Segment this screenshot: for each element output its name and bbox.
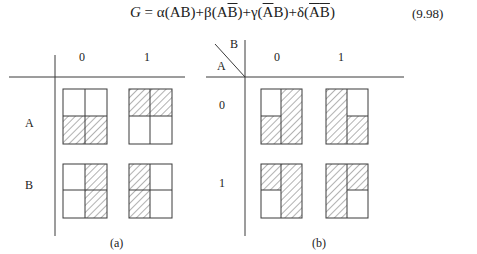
diagram-b-col-label-0: 0 [274,50,280,65]
cell-b-0-1 [326,89,368,144]
diagram-b-axes [206,40,404,236]
cell-b-1-1 [326,164,368,218]
cell-a-A-1 [129,89,172,144]
diagram-a-caption: (a) [110,236,123,251]
diagram-b-caption: (b) [312,236,326,251]
diagram-b-row-label-1: 1 [219,176,225,191]
cell-a-B-0 [63,164,107,218]
cell-a-B-1 [129,164,172,218]
diagram-a-col-label-0: 0 [79,50,85,65]
diagram-b-corner-col-var: B [230,37,238,52]
cell-a-A-0 [63,89,107,144]
diagram-b-row-label-0: 0 [219,98,225,113]
diagram-b-corner-row-var: A [217,59,226,74]
cell-b-0-0 [261,89,302,144]
diagram-a-row-label-A: A [25,116,34,131]
diagram-a-row-label-B: B [25,178,33,193]
cell-b-1-0 [261,164,302,218]
diagram-graphics [0,0,477,254]
diagram-b-col-label-1: 1 [338,50,344,65]
diagram-a-col-label-1: 1 [144,50,150,65]
